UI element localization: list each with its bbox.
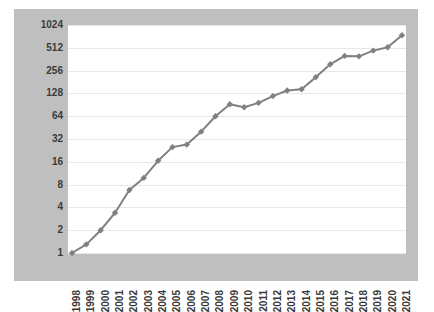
x-tick-label: 2005 (172, 290, 182, 312)
x-tick-label: 2008 (215, 290, 225, 312)
y-tick-label: 4 (57, 202, 63, 212)
x-tick-label: 2017 (345, 290, 355, 312)
y-tick-label: 512 (46, 43, 63, 53)
data-point-marker (284, 87, 290, 93)
series-line (72, 35, 402, 253)
x-tick-label: 2018 (359, 290, 369, 312)
y-tick-label: 1024 (41, 20, 63, 30)
y-tick-label: 8 (57, 180, 63, 190)
data-point-marker (356, 53, 362, 59)
x-tick-label: 2016 (330, 290, 340, 312)
data-series (68, 25, 406, 253)
x-tick-label: 2014 (302, 290, 312, 312)
x-tick-label: 2001 (115, 290, 125, 312)
chart-figure: 12481632641282565121024 1998199920002001… (14, 9, 418, 281)
x-tick-label: 2015 (316, 290, 326, 312)
y-tick-label: 2 (57, 225, 63, 235)
plot-area (68, 25, 406, 253)
x-tick-label: 2011 (259, 290, 269, 312)
x-tick-label: 2012 (273, 290, 283, 312)
x-tick-label: 2002 (129, 290, 139, 312)
x-tick-label: 2003 (144, 290, 154, 312)
x-tick-label: 2000 (101, 290, 111, 312)
x-tick-label: 1999 (86, 290, 96, 312)
x-tick-label: 2021 (402, 290, 412, 312)
data-point-marker (370, 47, 376, 53)
y-tick-label: 128 (46, 88, 63, 98)
y-tick-label: 1 (57, 248, 63, 258)
y-axis: 12481632641282565121024 (14, 25, 66, 253)
x-tick-label: 2013 (287, 290, 297, 312)
y-tick-label: 16 (52, 157, 63, 167)
x-tick-label: 2020 (388, 290, 398, 312)
data-point-marker (270, 93, 276, 99)
x-tick-label: 2006 (187, 290, 197, 312)
x-tick-label: 2019 (373, 290, 383, 312)
y-tick-label: 256 (46, 66, 63, 76)
x-tick-label: 2004 (158, 290, 168, 312)
y-tick-label: 64 (52, 111, 63, 121)
y-tick-label: 32 (52, 134, 63, 144)
x-tick-label: 1998 (72, 290, 82, 312)
x-tick-label: 2009 (230, 290, 240, 312)
data-point-marker (241, 104, 247, 110)
x-tick-label: 2010 (244, 290, 254, 312)
data-point-marker (255, 100, 261, 106)
x-axis: 1998199920002001200220032004200520062007… (68, 254, 406, 294)
x-tick-label: 2007 (201, 290, 211, 312)
